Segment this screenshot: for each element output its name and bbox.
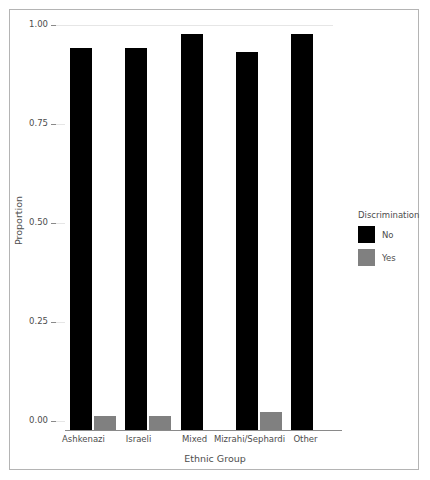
bar-israeli-no (125, 48, 147, 430)
y-tick-mark (51, 25, 56, 26)
x-axis-line (65, 430, 342, 431)
y-tick-mark (51, 124, 56, 125)
y-tick-label: 1.00 (6, 19, 48, 29)
y-tick-label: 0.00 (6, 415, 48, 425)
legend-item-yes[interactable]: Yes (358, 249, 419, 266)
y-tick-mark (51, 421, 56, 422)
x-axis-title: Ethnic Group (10, 453, 420, 464)
legend-label: Yes (382, 253, 396, 263)
y-tick-mark (51, 322, 56, 323)
bar-mizrahi-sephardi-yes (260, 412, 282, 430)
legend-swatch-yes (358, 249, 375, 266)
legend-label: No (382, 230, 394, 240)
gridline (56, 25, 333, 26)
legend-items: NoYes (358, 226, 419, 266)
bar-ashkenazi-no (70, 48, 92, 430)
legend: Discrimination NoYes (358, 210, 419, 272)
bar-ashkenazi-yes (94, 416, 116, 430)
bar-mizrahi-sephardi-no (236, 52, 258, 430)
legend-title: Discrimination (358, 210, 419, 220)
y-tick-label: 0.75 (6, 118, 48, 128)
y-tick-mark (51, 223, 56, 224)
y-tick-label: 0.50 (6, 217, 48, 227)
bar-mixed-no (181, 34, 203, 430)
bar-other-no (291, 34, 313, 430)
legend-swatch-no (358, 226, 375, 243)
y-tick-label: 0.25 (6, 316, 48, 326)
chart-frame: Proportion 0.000.250.500.751.00 Ashkenaz… (9, 9, 419, 470)
bar-israeli-yes (149, 416, 171, 430)
legend-item-no[interactable]: No (358, 226, 419, 243)
plot-area (65, 34, 342, 430)
x-tick-label: Other (266, 434, 345, 444)
